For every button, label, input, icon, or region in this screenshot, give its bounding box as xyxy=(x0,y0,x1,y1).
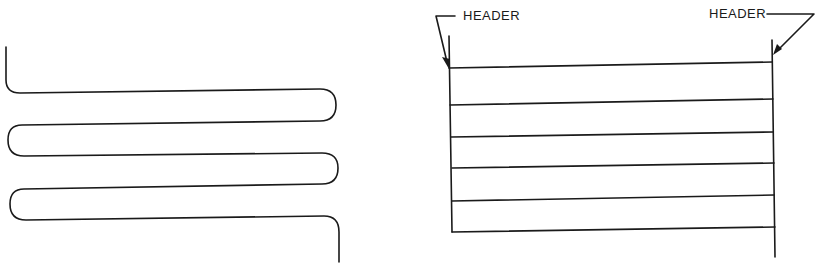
tube-3 xyxy=(451,132,773,137)
right-header-leader xyxy=(767,14,814,50)
left-header-leader xyxy=(436,16,455,62)
right-arrowhead-icon xyxy=(773,44,782,55)
tube-1 xyxy=(449,62,772,68)
left-header-label: HEADER xyxy=(463,8,520,23)
right-header-pipe xyxy=(772,40,775,257)
left-header-pipe xyxy=(449,36,452,232)
tube-6 xyxy=(452,227,775,232)
diagram-canvas xyxy=(0,0,815,274)
left-arrowhead-icon xyxy=(442,57,450,69)
serpentine-coil xyxy=(6,47,339,262)
tube-4 xyxy=(452,163,774,168)
right-header-label: HEADER xyxy=(709,6,766,21)
tube-2 xyxy=(450,99,773,105)
tube-5 xyxy=(452,195,774,201)
